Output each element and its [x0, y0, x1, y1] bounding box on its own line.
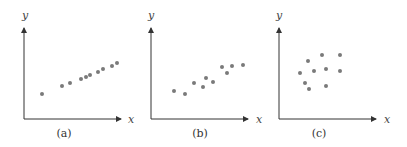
data-point: [241, 63, 245, 67]
data-point: [303, 81, 307, 85]
data-point: [79, 77, 83, 81]
y-axis-label: y: [147, 9, 155, 22]
data-point: [307, 87, 311, 91]
data-points: [298, 53, 342, 91]
data-point: [84, 75, 88, 79]
data-point: [110, 64, 114, 68]
data-point: [320, 53, 324, 57]
panel-caption: (a): [56, 127, 71, 140]
x-axis-label: x: [128, 113, 135, 126]
data-point: [324, 67, 328, 71]
panel-caption: (c): [312, 127, 327, 140]
y-axis-label: y: [275, 9, 283, 22]
data-point: [183, 92, 187, 96]
data-point: [101, 67, 105, 71]
data-point: [338, 53, 342, 57]
data-point: [298, 71, 302, 75]
data-point: [172, 89, 176, 93]
data-point: [225, 71, 229, 75]
data-point: [96, 70, 100, 74]
scatter-figure: y x (a) y x (b) y x (c): [0, 0, 407, 147]
panel-b: y x (b): [147, 9, 263, 140]
data-points: [40, 61, 119, 96]
data-point: [312, 69, 316, 73]
data-points: [172, 63, 245, 96]
data-point: [211, 80, 215, 84]
panel-c: y x (c): [275, 9, 391, 140]
data-point: [204, 76, 208, 80]
panel-caption: (b): [192, 127, 208, 140]
data-point: [192, 81, 196, 85]
panel-a: y x (a): [21, 9, 135, 140]
y-axis-label: y: [21, 9, 29, 22]
data-point: [115, 61, 119, 65]
data-point: [306, 59, 310, 63]
x-axis-label: x: [256, 113, 263, 126]
data-point: [230, 64, 234, 68]
data-point: [324, 84, 328, 88]
data-point: [338, 69, 342, 73]
data-point: [68, 81, 72, 85]
data-point: [40, 92, 44, 96]
data-point: [220, 65, 224, 69]
data-point: [88, 73, 92, 77]
data-point: [201, 85, 205, 89]
data-point: [60, 84, 64, 88]
x-axis-label: x: [384, 113, 391, 126]
